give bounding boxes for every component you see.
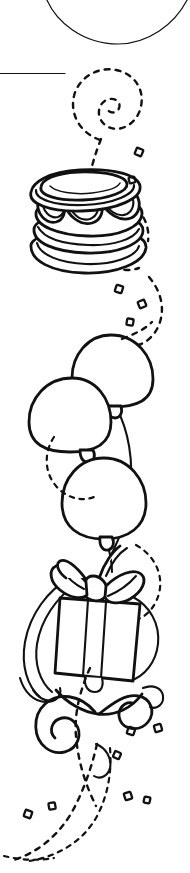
confetti-piece <box>113 751 122 760</box>
confetti-piece <box>127 727 136 736</box>
confetti-piece <box>143 796 150 803</box>
curling-streamers <box>20 678 163 778</box>
confetti-piece <box>154 724 163 733</box>
birthday-cake <box>31 170 146 273</box>
illustration-canvas <box>0 0 190 873</box>
gift-box <box>24 546 158 697</box>
balloon-cluster <box>29 335 153 572</box>
confetti-piece <box>126 318 134 326</box>
confetti-piece <box>48 802 56 810</box>
party-border-illustration: Birthday party border illustration <box>0 0 190 873</box>
balloon-lower-center <box>62 458 146 550</box>
dashed-trail-top <box>73 69 142 176</box>
confetti-piece <box>137 299 146 308</box>
balloon-left <box>29 378 111 462</box>
top-arc-border <box>42 0 190 44</box>
confetti-piece <box>124 792 133 801</box>
confetti-piece <box>134 147 143 156</box>
confetti-piece <box>115 285 124 294</box>
confetti-piece <box>24 810 33 819</box>
